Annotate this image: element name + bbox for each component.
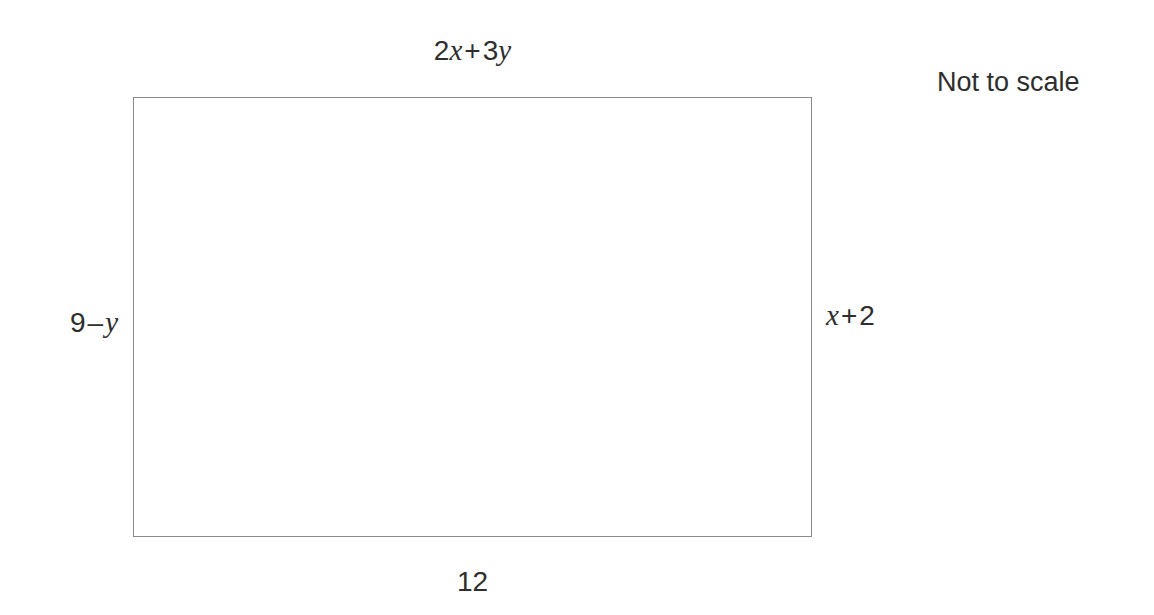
left-label-operator: – xyxy=(86,307,106,338)
top-label-operator: + xyxy=(462,35,482,66)
left-label-value: 9 xyxy=(70,307,86,338)
bottom-side-label: 12 xyxy=(133,568,812,596)
right-label-variable: x xyxy=(826,299,839,331)
left-label-variable: y xyxy=(105,306,118,338)
top-label-variable-1: x xyxy=(449,34,462,66)
top-side-label: 2x+3y xyxy=(133,36,812,65)
left-side-label: 9–y xyxy=(0,308,118,337)
not-to-scale-note: Not to scale xyxy=(937,69,1080,96)
top-label-coefficient-2: 3 xyxy=(483,35,499,66)
right-label-value: 2 xyxy=(859,300,875,331)
diagram-canvas: 2x+3y x+2 9–y 12 Not to scale xyxy=(0,0,1154,615)
bottom-label-value: 12 xyxy=(457,566,488,597)
top-label-coefficient-1: 2 xyxy=(434,35,450,66)
right-side-label: x+2 xyxy=(826,301,875,330)
right-label-operator: + xyxy=(839,300,859,331)
top-label-variable-2: y xyxy=(498,34,511,66)
rectangle-shape xyxy=(133,97,812,537)
